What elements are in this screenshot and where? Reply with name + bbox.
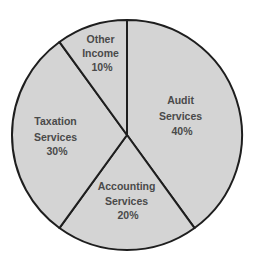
pie-chart: Audit Services 40% Accounting Services 2… xyxy=(0,0,254,267)
